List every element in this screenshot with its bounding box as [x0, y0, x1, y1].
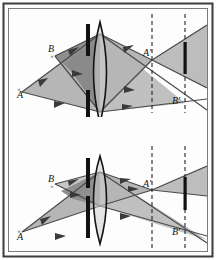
image-bar	[184, 177, 187, 210]
marker-x-B: ×	[50, 53, 54, 61]
marker-x-A: ×	[17, 86, 21, 94]
marker-x-A: ×	[17, 228, 21, 236]
label-point-B-prime: B'	[172, 226, 181, 237]
aperture-stop-upper	[86, 158, 90, 188]
label-point-B-prime: B'	[172, 95, 181, 106]
label-point-A-prime: A'	[142, 178, 152, 189]
image-bar	[184, 42, 187, 74]
figure-root: A B A' B' × × A B A' B' × ×	[0, 0, 216, 260]
ray-diagram-svg: A B A' B' × × A B A' B' × ×	[0, 0, 216, 260]
aperture-stop-upper	[86, 24, 90, 56]
aperture-stop-lower	[86, 196, 90, 238]
label-point-A-prime: A'	[142, 47, 152, 58]
marker-x-B: ×	[50, 183, 54, 191]
